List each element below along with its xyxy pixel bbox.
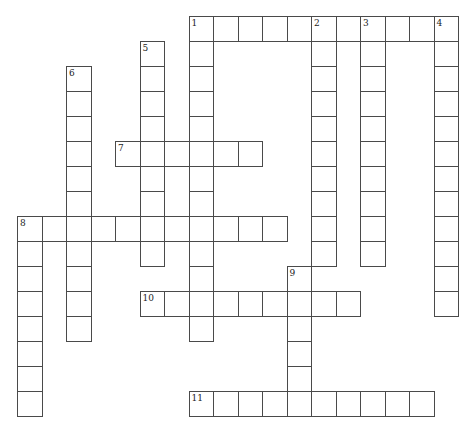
grid-cell[interactable] — [140, 91, 166, 117]
grid-cell[interactable] — [238, 141, 264, 167]
grid-cell[interactable] — [434, 141, 460, 167]
grid-cell[interactable] — [409, 16, 435, 42]
grid-cell[interactable] — [66, 216, 92, 242]
grid-cell[interactable] — [238, 216, 264, 242]
grid-cell[interactable] — [360, 241, 386, 267]
grid-cell[interactable] — [434, 266, 460, 292]
grid-cell[interactable] — [434, 216, 460, 242]
grid-cell[interactable]: 3 — [360, 16, 386, 42]
grid-cell[interactable] — [336, 291, 362, 317]
grid-cell[interactable] — [66, 291, 92, 317]
grid-cell[interactable] — [434, 291, 460, 317]
grid-cell[interactable] — [140, 66, 166, 92]
grid-cell[interactable] — [189, 166, 215, 192]
grid-cell[interactable] — [66, 266, 92, 292]
grid-cell[interactable] — [164, 141, 190, 167]
grid-cell[interactable] — [140, 241, 166, 267]
grid-cell[interactable] — [140, 166, 166, 192]
grid-cell[interactable] — [311, 166, 337, 192]
grid-cell[interactable] — [360, 91, 386, 117]
grid-cell[interactable] — [311, 116, 337, 142]
grid-cell[interactable] — [311, 216, 337, 242]
grid-cell[interactable] — [213, 16, 239, 42]
grid-cell[interactable]: 6 — [66, 66, 92, 92]
grid-cell[interactable] — [17, 291, 43, 317]
grid-cell[interactable] — [189, 241, 215, 267]
grid-cell[interactable] — [311, 241, 337, 267]
grid-cell[interactable] — [262, 291, 288, 317]
grid-cell[interactable] — [66, 191, 92, 217]
grid-cell[interactable]: 9 — [287, 266, 313, 292]
grid-cell[interactable] — [17, 241, 43, 267]
grid-cell[interactable]: 8 — [17, 216, 43, 242]
grid-cell[interactable] — [287, 366, 313, 392]
grid-cell[interactable] — [238, 16, 264, 42]
grid-cell[interactable]: 4 — [434, 16, 460, 42]
grid-cell[interactable] — [238, 391, 264, 417]
grid-cell[interactable] — [238, 291, 264, 317]
grid-cell[interactable] — [189, 266, 215, 292]
grid-cell[interactable]: 7 — [115, 141, 141, 167]
grid-cell[interactable] — [311, 41, 337, 67]
grid-cell[interactable] — [360, 141, 386, 167]
grid-cell[interactable] — [262, 216, 288, 242]
grid-cell[interactable] — [140, 141, 166, 167]
grid-cell[interactable] — [434, 41, 460, 67]
grid-cell[interactable] — [311, 66, 337, 92]
grid-cell[interactable] — [17, 316, 43, 342]
grid-cell[interactable] — [434, 116, 460, 142]
grid-cell[interactable] — [262, 391, 288, 417]
grid-cell[interactable] — [66, 91, 92, 117]
grid-cell[interactable] — [189, 216, 215, 242]
grid-cell[interactable] — [115, 216, 141, 242]
grid-cell[interactable] — [17, 366, 43, 392]
grid-cell[interactable] — [360, 166, 386, 192]
grid-cell[interactable]: 5 — [140, 41, 166, 67]
grid-cell[interactable] — [91, 216, 117, 242]
grid-cell[interactable] — [213, 216, 239, 242]
grid-cell[interactable] — [360, 41, 386, 67]
grid-cell[interactable] — [140, 216, 166, 242]
grid-cell[interactable] — [360, 191, 386, 217]
grid-cell[interactable] — [434, 191, 460, 217]
grid-cell[interactable] — [189, 66, 215, 92]
grid-cell[interactable] — [164, 216, 190, 242]
grid-cell[interactable] — [360, 66, 386, 92]
grid-cell[interactable] — [385, 16, 411, 42]
grid-cell[interactable] — [434, 166, 460, 192]
grid-cell[interactable] — [311, 291, 337, 317]
grid-cell[interactable] — [66, 141, 92, 167]
grid-cell[interactable] — [287, 291, 313, 317]
grid-cell[interactable] — [434, 241, 460, 267]
grid-cell[interactable] — [287, 341, 313, 367]
grid-cell[interactable] — [189, 291, 215, 317]
grid-cell[interactable] — [287, 316, 313, 342]
grid-cell[interactable] — [336, 16, 362, 42]
grid-cell[interactable] — [434, 66, 460, 92]
grid-cell[interactable] — [189, 191, 215, 217]
grid-cell[interactable] — [189, 316, 215, 342]
grid-cell[interactable] — [336, 391, 362, 417]
grid-cell[interactable] — [262, 16, 288, 42]
grid-cell[interactable] — [311, 191, 337, 217]
grid-cell[interactable] — [140, 191, 166, 217]
grid-cell[interactable] — [66, 241, 92, 267]
grid-cell[interactable] — [189, 91, 215, 117]
grid-cell[interactable]: 11 — [189, 391, 215, 417]
grid-cell[interactable] — [213, 141, 239, 167]
grid-cell[interactable] — [66, 116, 92, 142]
grid-cell[interactable]: 10 — [140, 291, 166, 317]
grid-cell[interactable] — [360, 391, 386, 417]
grid-cell[interactable] — [287, 16, 313, 42]
grid-cell[interactable] — [360, 216, 386, 242]
grid-cell[interactable]: 1 — [189, 16, 215, 42]
grid-cell[interactable] — [66, 316, 92, 342]
grid-cell[interactable] — [189, 116, 215, 142]
grid-cell[interactable] — [42, 216, 68, 242]
grid-cell[interactable]: 2 — [311, 16, 337, 42]
grid-cell[interactable] — [213, 391, 239, 417]
grid-cell[interactable] — [360, 116, 386, 142]
grid-cell[interactable] — [213, 291, 239, 317]
grid-cell[interactable] — [140, 116, 166, 142]
grid-cell[interactable] — [189, 41, 215, 67]
